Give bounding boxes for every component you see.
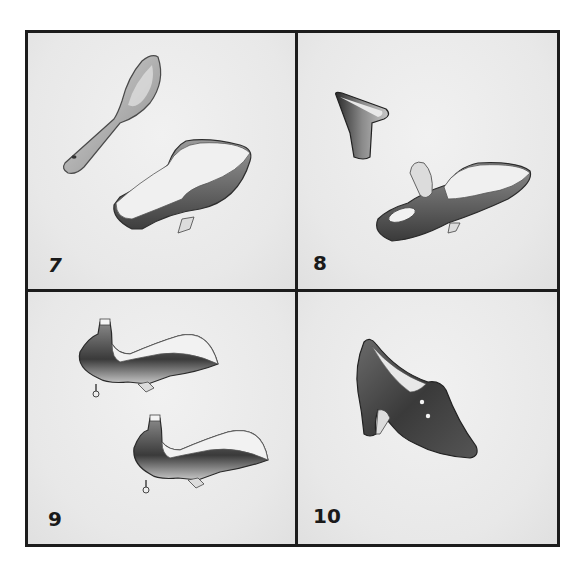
panel-10: 10 — [298, 292, 557, 544]
last-lower — [134, 415, 268, 493]
heel-block-and-last-illustration — [298, 33, 557, 289]
last-upper — [79, 319, 218, 397]
figure-grid: 7 8 — [25, 30, 560, 547]
shoe — [357, 339, 477, 458]
horizontal-divider — [28, 289, 557, 292]
shoe-last — [114, 140, 251, 233]
heel-stiffener — [64, 56, 161, 174]
panel-7: 7 — [28, 33, 295, 289]
shoe-last-with-flap — [377, 162, 531, 241]
panel-8: 8 — [298, 33, 557, 289]
lasts-with-heels-illustration — [28, 292, 295, 544]
panel-number: 8 — [313, 251, 327, 275]
heel-block — [336, 92, 389, 159]
panel-number: 7 — [48, 253, 62, 277]
panel-number: 9 — [48, 507, 62, 531]
heel-cup-and-last-illustration — [28, 33, 295, 289]
panel-number: 10 — [313, 504, 341, 528]
panel-9: 9 — [28, 292, 295, 544]
